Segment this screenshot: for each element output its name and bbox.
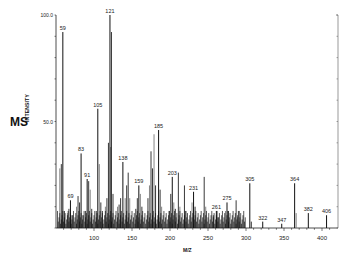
- peak-label: 406: [322, 208, 331, 214]
- y-tick-label: 100.0: [40, 12, 53, 18]
- peak-label: 322: [258, 215, 267, 221]
- peak-label: 261: [212, 204, 221, 210]
- peak-label: 121: [105, 8, 114, 14]
- peak-label: 185: [154, 123, 163, 129]
- peak-label: 231: [189, 185, 198, 191]
- x-tick-label: 300: [241, 235, 252, 241]
- peak-labels: 5969839110512113815918520323126127530532…: [60, 8, 331, 223]
- peak-label: 364: [290, 176, 299, 182]
- x-tick-label: 100: [89, 235, 100, 241]
- peak-label: 275: [222, 195, 231, 201]
- x-tick-label: 350: [279, 235, 290, 241]
- chart-axes: 50.0100.0100150200250300350400: [40, 12, 338, 241]
- peak-label: 138: [118, 155, 127, 161]
- peak-label: 83: [78, 146, 84, 152]
- x-tick-label: 400: [317, 235, 328, 241]
- peak-label: 347: [277, 217, 286, 223]
- peak-label: 305: [245, 176, 254, 182]
- y-tick-label: 50.0: [43, 119, 53, 125]
- mass-spectrum-chart: 50.0100.0100150200250300350400 596983911…: [0, 0, 349, 264]
- peak-label: 105: [93, 102, 102, 108]
- peak-label: 59: [60, 25, 66, 31]
- x-tick-label: 250: [203, 235, 214, 241]
- x-tick-label: 200: [165, 235, 176, 241]
- peak-label: 382: [304, 206, 313, 212]
- peak-label: 91: [84, 172, 90, 178]
- peak-label: 69: [67, 193, 73, 199]
- peak-label: 159: [134, 178, 143, 184]
- peak-label: 203: [168, 170, 177, 176]
- x-tick-label: 150: [127, 235, 138, 241]
- peak-bars: [58, 15, 327, 228]
